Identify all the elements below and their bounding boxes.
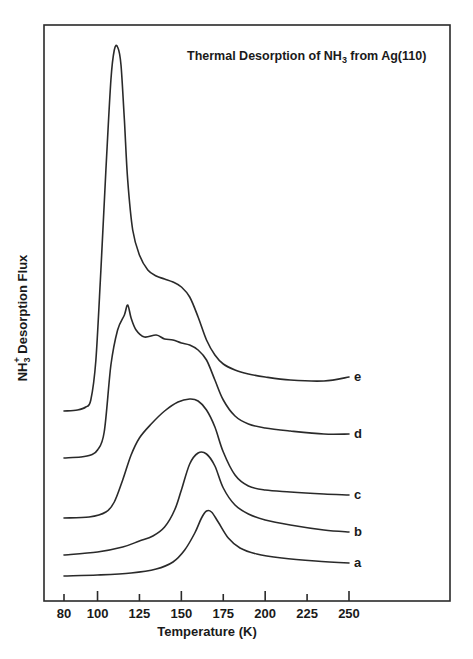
x-tick-label: 250	[338, 606, 360, 621]
plot-frame	[44, 25, 450, 601]
curve-label-c: c	[354, 487, 361, 502]
x-tick-label: 100	[87, 606, 109, 621]
x-tick-label: 200	[254, 606, 276, 621]
x-axis-ticks: 80100125150175200225250	[57, 591, 360, 621]
curve-label-b: b	[354, 524, 362, 539]
x-tick-label: 125	[129, 606, 151, 621]
x-tick-label: 80	[57, 606, 71, 621]
curve-label-d: d	[354, 426, 362, 441]
desorption-curves	[64, 45, 349, 576]
curve-a	[64, 510, 349, 576]
y-axis-title: NH3+ Desorption Flux	[12, 254, 32, 381]
tpd-chart: 80100125150175200225250 abcde Thermal De…	[0, 0, 473, 659]
x-tick-label: 175	[212, 606, 234, 621]
curve-label-e: e	[354, 369, 361, 384]
chart-title: Thermal Desorption of NH3 from Ag(110)	[187, 49, 426, 65]
curve-e	[64, 45, 349, 411]
curve-label-a: a	[354, 555, 362, 570]
x-axis-title: Temperature (K)	[157, 624, 256, 639]
x-tick-label: 225	[296, 606, 318, 621]
curve-labels: abcde	[354, 369, 362, 570]
x-tick-label: 150	[171, 606, 193, 621]
curve-b	[64, 452, 349, 555]
